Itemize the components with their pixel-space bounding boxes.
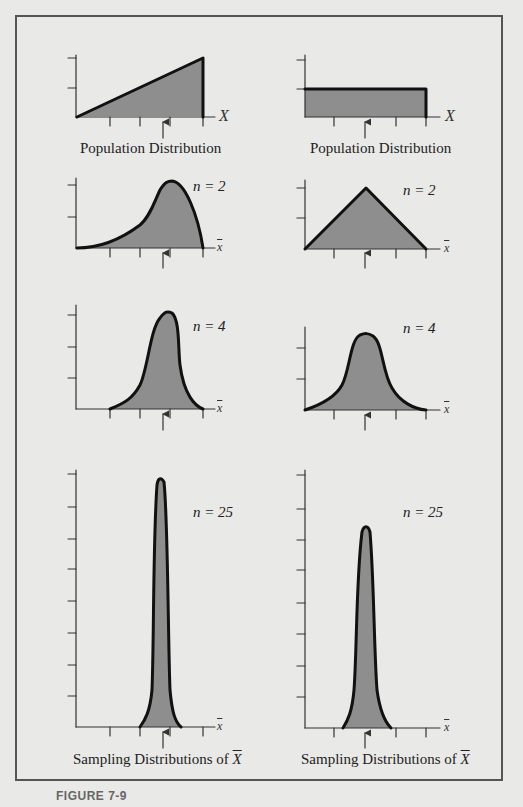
axis-label-xbar: x (444, 402, 449, 417)
figure-label: FIGURE 7-9 (56, 789, 127, 803)
n-label: n = 2 (193, 178, 226, 195)
n-label: n = 2 (403, 182, 436, 199)
chart-pop-left (68, 55, 215, 138)
axis-label-X-left: X (219, 107, 229, 125)
caption-sampling-left: Sampling Distributions of X (73, 751, 242, 768)
n-label: n = 25 (403, 504, 443, 521)
axis-label-xbar: x (217, 401, 222, 416)
chart-n4-right (297, 327, 440, 430)
caption-population-left: Population Distribution (80, 140, 221, 157)
axis-label-xbar: x (217, 240, 222, 255)
axis-label-xbar: x (444, 720, 449, 735)
n-label: n = 4 (193, 318, 226, 335)
n-label: n = 4 (403, 320, 436, 337)
axis-label-xbar: x (217, 719, 222, 734)
chart-pop-right (297, 55, 440, 138)
caption-population-right: Population Distribution (310, 140, 451, 157)
axis-label-X-right: X (445, 107, 455, 125)
caption-sampling-right: Sampling Distributions of X (301, 751, 470, 768)
axis-label-xbar: x (444, 241, 449, 256)
n-label: n = 25 (193, 504, 233, 521)
